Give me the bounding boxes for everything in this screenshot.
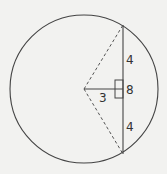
geometry-diagram: 4 8 3 4: [0, 0, 167, 174]
dashed-radius-upper: [84, 25, 123, 89]
label-lower-half: 4: [126, 120, 134, 134]
label-chord-length: 8: [126, 83, 134, 97]
label-distance: 3: [99, 91, 107, 105]
label-upper-half: 4: [126, 53, 134, 67]
